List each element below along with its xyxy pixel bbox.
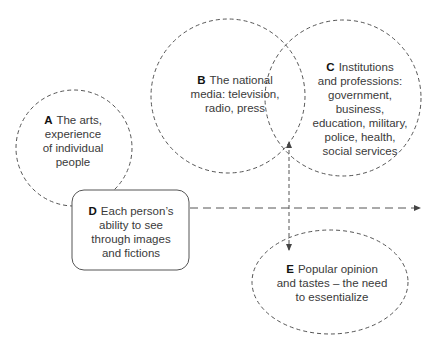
node-e-letter: E [286, 263, 294, 275]
node-c-label: CInstitutions and professions: governmen… [305, 60, 415, 158]
node-c-letter: C [326, 61, 334, 73]
node-d-letter: D [89, 205, 97, 217]
node-b-letter: B [197, 74, 205, 86]
node-e-label: EPopular opinion and tastes – the need t… [262, 262, 402, 304]
node-a-label: AThe arts, experience of individual peop… [25, 113, 121, 169]
node-d-label: DEach person’s ability to see through im… [76, 204, 186, 260]
node-b-label: BThe national media: television, radio, … [180, 73, 290, 115]
node-a-letter: A [44, 114, 52, 126]
